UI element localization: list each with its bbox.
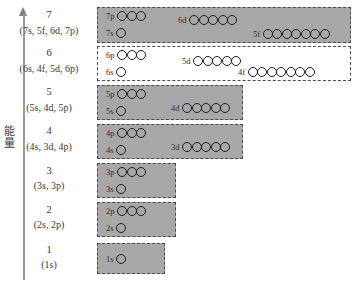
orbital-circle-icon xyxy=(116,28,126,38)
orbital-circle-icon xyxy=(136,128,146,138)
orbital-group-1s: 1s xyxy=(106,254,126,264)
orbital-circle-icon xyxy=(211,103,221,113)
orbital-circle-icon xyxy=(257,67,267,77)
orbital-circle-icon xyxy=(211,142,221,152)
orbital-circle-icon xyxy=(117,11,127,21)
orbital-circle-icon xyxy=(272,29,282,39)
orbital-circle-icon xyxy=(116,67,126,77)
orbital-label-3d: 3d xyxy=(171,143,180,152)
orbital-circles-3s xyxy=(116,184,126,194)
orbital-circle-icon xyxy=(116,184,126,194)
orbital-circle-icon xyxy=(201,103,211,113)
shell-number-3: 3 xyxy=(3,165,95,177)
orbital-circle-icon xyxy=(263,29,273,39)
orbital-circle-icon xyxy=(320,29,330,39)
shell-number-6: 6 xyxy=(3,47,95,59)
orbital-circle-icon xyxy=(199,15,209,25)
shell-subshells-5: (5s, 4d, 5p) xyxy=(3,102,95,114)
orbital-group-2p: 2p xyxy=(106,206,146,216)
orbital-circles-2s xyxy=(116,223,126,233)
shell-box-3: 3p3s xyxy=(97,163,176,198)
orbital-circle-icon xyxy=(248,67,258,77)
orbital-label-6s: 6s xyxy=(106,68,114,77)
orbital-circles-7s xyxy=(116,28,126,38)
orbital-circles-6d xyxy=(189,15,237,25)
orbital-circles-5p xyxy=(117,89,146,99)
orbital-label-5s: 5s xyxy=(106,107,114,116)
shell-label-column: 7(7s, 5f, 6d, 7p)6(6s, 4f, 5d, 6p)5(5s, … xyxy=(0,0,95,289)
orbital-circles-4f xyxy=(248,67,315,77)
shell-number-2: 2 xyxy=(3,204,95,216)
orbital-circle-icon xyxy=(182,142,192,152)
orbital-circle-icon xyxy=(267,67,277,77)
orbital-circle-icon xyxy=(136,89,146,99)
orbital-group-3s: 3s xyxy=(106,184,126,194)
orbital-circles-5s xyxy=(116,106,126,116)
orbital-label-3s: 3s xyxy=(106,185,114,194)
orbital-circle-icon xyxy=(127,128,137,138)
orbital-circle-icon xyxy=(127,50,137,60)
orbital-label-7s: 7s xyxy=(106,29,114,38)
orbital-circle-icon xyxy=(192,142,202,152)
orbital-circles-4p xyxy=(117,128,146,138)
orbital-circle-icon xyxy=(286,67,296,77)
orbital-circle-icon xyxy=(117,128,127,138)
orbital-label-6p: 6p xyxy=(106,51,115,60)
orbital-label-1s: 1s xyxy=(106,255,114,264)
orbital-circle-icon xyxy=(117,206,127,216)
shell-box-4: 4p3d4s xyxy=(97,124,243,159)
orbital-circle-icon xyxy=(116,254,126,264)
orbital-circle-icon xyxy=(127,11,137,21)
orbital-label-4p: 4p xyxy=(106,129,115,138)
orbital-label-3p: 3p xyxy=(106,168,115,177)
orbital-group-4d: 4d xyxy=(171,103,230,113)
orbital-group-4s: 4s xyxy=(106,145,126,155)
orbital-group-7s: 7s xyxy=(106,28,126,38)
orbital-circle-icon xyxy=(136,11,146,21)
orbital-circles-4d xyxy=(182,103,230,113)
orbital-circle-icon xyxy=(282,29,292,39)
orbital-label-4f: 4f xyxy=(238,68,245,77)
shell-subshells-3: (3s, 3p) xyxy=(3,180,95,192)
orbital-label-4s: 4s xyxy=(106,146,114,155)
orbital-circles-5f xyxy=(263,29,330,39)
orbital-circles-6s xyxy=(116,67,126,77)
orbital-circle-icon xyxy=(220,142,230,152)
orbital-label-5p: 5p xyxy=(106,90,115,99)
orbital-circle-icon xyxy=(222,56,232,66)
orbital-group-3d: 3d xyxy=(171,142,230,152)
orbital-circles-1s xyxy=(116,254,126,264)
orbital-label-2p: 2p xyxy=(106,207,115,216)
orbital-circle-icon xyxy=(117,167,127,177)
orbital-circle-icon xyxy=(193,56,203,66)
orbital-group-3p: 3p xyxy=(106,167,146,177)
orbital-circle-icon xyxy=(127,206,137,216)
orbital-circle-icon xyxy=(201,142,211,152)
orbital-group-6d: 6d xyxy=(178,15,237,25)
shell-number-4: 4 xyxy=(3,125,95,137)
orbital-circle-icon xyxy=(212,56,222,66)
orbital-circle-icon xyxy=(136,50,146,60)
shell-number-7: 7 xyxy=(3,9,95,21)
orbital-circles-3d xyxy=(182,142,230,152)
orbital-group-5d: 5d xyxy=(182,56,241,66)
orbital-group-5s: 5s xyxy=(106,106,126,116)
orbital-group-5p: 5p xyxy=(106,89,146,99)
shell-subshells-2: (2s, 2p) xyxy=(3,219,95,231)
orbital-circle-icon xyxy=(116,223,126,233)
orbital-circle-icon xyxy=(116,145,126,155)
shell-number-5: 5 xyxy=(3,86,95,98)
orbital-circle-icon xyxy=(301,29,311,39)
shell-subshells-4: (4s, 3d, 4p) xyxy=(3,141,95,153)
shell-box-6: 6p5d6s4f xyxy=(97,46,351,81)
orbital-group-7p: 7p xyxy=(106,11,146,21)
orbital-circle-icon xyxy=(136,167,146,177)
orbital-circle-icon xyxy=(218,15,228,25)
shell-number-1: 1 xyxy=(3,244,95,256)
orbital-group-4p: 4p xyxy=(106,128,146,138)
orbital-circles-5d xyxy=(193,56,241,66)
orbital-group-2s: 2s xyxy=(106,223,126,233)
orbital-circle-icon xyxy=(136,206,146,216)
orbital-circle-icon xyxy=(295,67,305,77)
orbital-circle-icon xyxy=(127,167,137,177)
